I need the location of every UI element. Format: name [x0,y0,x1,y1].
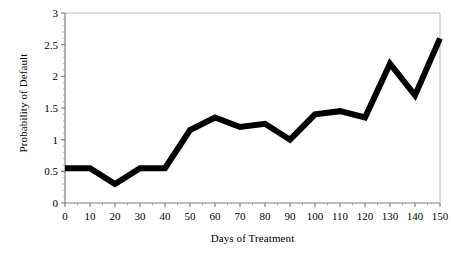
svg-text:2: 2 [53,70,59,82]
svg-text:0: 0 [62,210,68,222]
svg-text:30: 30 [135,210,147,222]
svg-text:0: 0 [53,197,59,209]
svg-text:20: 20 [110,210,122,222]
svg-text:130: 130 [382,210,399,222]
svg-text:10: 10 [85,210,97,222]
plot-area: 00.511.522.53010203040506070809010011012… [0,0,451,257]
svg-text:3: 3 [53,7,59,19]
svg-text:50: 50 [185,210,197,222]
tick-label-group: 00.511.522.53010203040506070809010011012… [44,7,449,222]
svg-text:80: 80 [260,210,272,222]
svg-text:2.5: 2.5 [44,39,58,51]
svg-text:120: 120 [357,210,374,222]
svg-text:110: 110 [332,210,349,222]
svg-text:140: 140 [407,210,424,222]
svg-text:1: 1 [53,134,59,146]
svg-text:100: 100 [307,210,324,222]
chart-container: Probability of Default Days of Treatment… [0,0,451,257]
svg-text:70: 70 [235,210,247,222]
tick-group [61,13,440,207]
svg-text:90: 90 [285,210,297,222]
svg-text:1.5: 1.5 [44,102,58,114]
svg-text:40: 40 [160,210,172,222]
svg-text:60: 60 [210,210,222,222]
svg-text:0.5: 0.5 [44,165,58,177]
svg-text:150: 150 [432,210,449,222]
data-series-group [65,38,440,184]
axes-group [65,13,440,203]
